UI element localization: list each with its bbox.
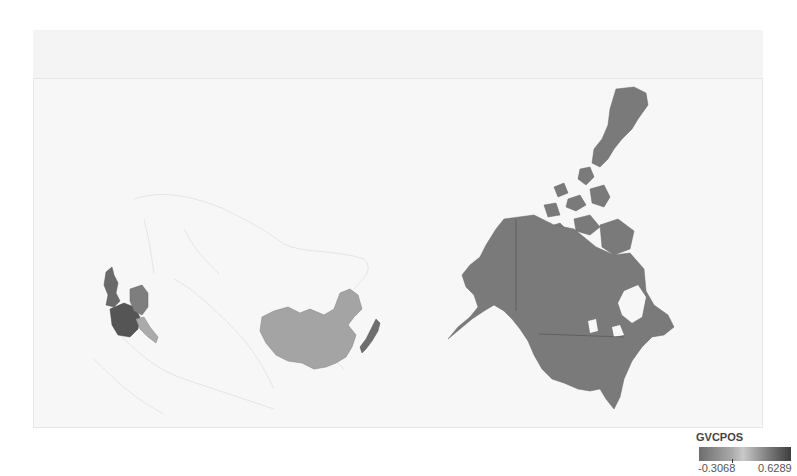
east-asia-group — [260, 289, 380, 369]
region-canada-arctic — [592, 87, 648, 167]
region-china — [260, 289, 362, 369]
legend-title: GVCPOS — [696, 431, 743, 443]
region-japan — [360, 319, 380, 353]
map-canvas[interactable] — [34, 79, 764, 429]
legend-min-label: -0.3068 — [698, 462, 735, 474]
legend: GVCPOS -0.3068 0.6289 — [696, 431, 796, 476]
region-italy — [136, 317, 158, 343]
region-uk — [104, 267, 120, 307]
legend-color-scale — [699, 447, 791, 461]
north-america-group — [448, 87, 674, 409]
map-panel[interactable]: GVCPOS -0.3068 0.6289 — [33, 78, 763, 428]
europe-group — [104, 267, 158, 343]
legend-max-label: 0.6289 — [758, 462, 792, 474]
header-band — [33, 30, 763, 78]
